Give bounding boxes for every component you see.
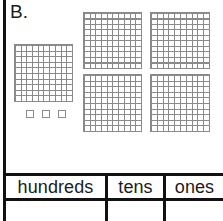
place-value-table: hundreds tens ones xyxy=(6,173,223,221)
flat-bottom-left xyxy=(83,74,142,132)
answer-cell-hundreds[interactable] xyxy=(6,201,105,221)
header-hundreds: hundreds xyxy=(6,176,105,198)
place-value-header-row: hundreds tens ones xyxy=(6,176,223,201)
worksheet-page: B. hundreds tens ones xyxy=(0,0,223,221)
left-margin-rule-top xyxy=(3,0,6,173)
answer-cell-ones[interactable] xyxy=(163,201,223,221)
flat-top-right xyxy=(150,12,210,69)
unit-cube-2 xyxy=(42,110,50,118)
flat-top-left xyxy=(83,12,142,69)
header-tens: tens xyxy=(105,176,163,198)
header-ones: ones xyxy=(163,176,223,198)
unit-cube-1 xyxy=(26,110,34,118)
answer-cell-tens[interactable] xyxy=(105,201,163,221)
problem-label: B. xyxy=(10,1,28,23)
place-value-answer-row xyxy=(6,201,223,221)
unit-cube-3 xyxy=(58,110,66,118)
flat-left xyxy=(14,44,73,102)
flat-bottom-right xyxy=(150,74,210,132)
